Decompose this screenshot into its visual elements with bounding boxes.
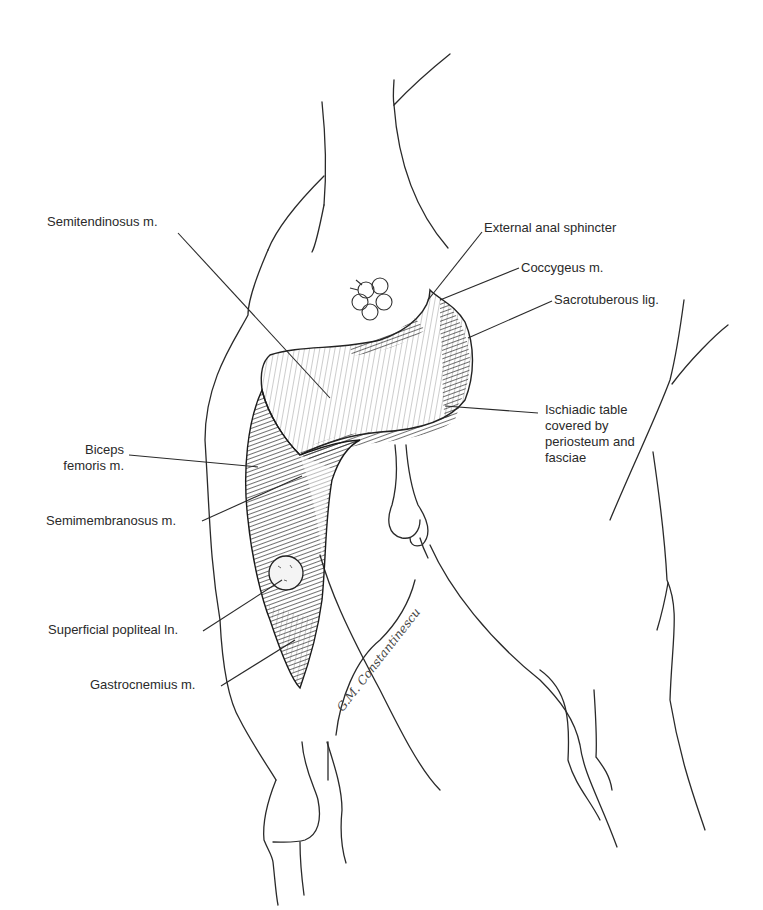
- anus-rosette: [350, 278, 392, 320]
- outline-tail-left: [322, 102, 325, 205]
- outline-right-stifle: [653, 452, 705, 830]
- leader-biceps-femoris: [129, 455, 258, 467]
- outline-tail-curve: [394, 105, 448, 248]
- label-semimembranosus: Semimembranosus m.: [46, 513, 176, 529]
- label-superficial-popliteal: Superficial popliteal ln.: [48, 622, 178, 638]
- label-semitendinosus: Semitendinosus m.: [47, 214, 158, 230]
- leader-ischiadic-table: [445, 406, 538, 413]
- semitendinosus-muscle: [261, 290, 472, 462]
- leader-coccygeus: [440, 268, 519, 300]
- label-ischiadic-table: Ischiadic table covered by periosteum an…: [545, 402, 635, 466]
- leader-semitendinosus: [178, 233, 330, 398]
- label-sacrotuberous: Sacrotuberous lig.: [554, 292, 659, 308]
- outline-right-hock: [327, 742, 346, 863]
- outline-rump-left: [268, 176, 324, 250]
- leader-sacrotuberous: [468, 301, 552, 338]
- outline-tail-right: [393, 54, 450, 105]
- outline-scrotum-left: [389, 445, 420, 538]
- label-coccygeus: Coccygeus m.: [521, 260, 603, 276]
- label-biceps-femoris: Biceps femoris m.: [52, 442, 124, 474]
- outline-hock-heel: [273, 742, 319, 842]
- leader-external-anal-sphincter: [428, 232, 482, 300]
- outline-inner-left-leg: [320, 555, 440, 790]
- leader-gastrocnemius: [221, 640, 295, 686]
- label-external-anal-sphincter: External anal sphincter: [484, 220, 616, 236]
- label-gastrocnemius: Gastrocnemius m.: [90, 677, 195, 693]
